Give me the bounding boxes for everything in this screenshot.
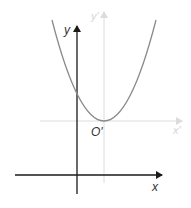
main-y-axis-label: y [63, 23, 71, 37]
new-y-axis-label: y' [90, 10, 100, 22]
new-x-axis-label: x' [172, 124, 182, 136]
main-x-axis-label: x [151, 180, 159, 194]
new-origin-label: O' [91, 125, 103, 139]
coordinate-diagram: y x O' y' x' [0, 0, 191, 208]
